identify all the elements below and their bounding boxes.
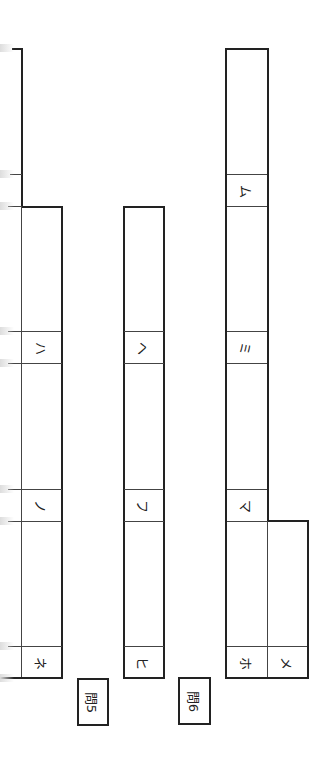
cell-label-mu: ム bbox=[231, 171, 263, 211]
cell-label-ho: ホ bbox=[231, 643, 263, 683]
answer-area-me[interactable] bbox=[268, 522, 307, 646]
scan-shadow bbox=[0, 485, 14, 493]
scan-shadow bbox=[0, 202, 14, 210]
cell-label-he: ヘ bbox=[128, 328, 160, 368]
answer-area-mu[interactable] bbox=[227, 50, 267, 174]
scan-shadow bbox=[0, 359, 14, 367]
right-box-ext-right-border bbox=[307, 520, 309, 679]
question-5-label-box: 問5 bbox=[77, 678, 109, 726]
scan-shadow bbox=[0, 170, 14, 178]
answer-area-ne[interactable] bbox=[22, 522, 61, 646]
question-5-label: 問5 bbox=[84, 691, 103, 712]
cell-label-fu: フ bbox=[128, 486, 160, 526]
answer-area-no[interactable] bbox=[22, 364, 61, 489]
scan-shadow bbox=[0, 642, 14, 650]
scan-shadow bbox=[0, 327, 14, 335]
answer-area-ho[interactable] bbox=[227, 522, 267, 646]
answer-area-he[interactable] bbox=[125, 208, 163, 331]
answer-area-mi[interactable] bbox=[227, 207, 267, 331]
cell-label-mi: ミ bbox=[231, 328, 263, 368]
cell-label-hi: ヒ bbox=[128, 643, 160, 683]
bracket-vertical bbox=[21, 48, 23, 208]
scan-shadow bbox=[0, 44, 14, 52]
answer-area-hi[interactable] bbox=[125, 522, 163, 646]
cell-label-ne: ネ bbox=[26, 643, 58, 683]
question-6-label-box: 問6 bbox=[178, 677, 211, 725]
scan-shadow bbox=[0, 674, 14, 682]
cell-label-ha: ハ bbox=[26, 328, 58, 368]
answer-area-fu[interactable] bbox=[125, 364, 163, 489]
answer-area-ha[interactable] bbox=[22, 208, 61, 331]
cell-label-no: ノ bbox=[26, 486, 58, 526]
answer-area-ma[interactable] bbox=[227, 364, 267, 489]
scan-shadow bbox=[0, 517, 14, 525]
right-box-right-border-upper bbox=[267, 48, 269, 522]
cell-label-ma: マ bbox=[231, 486, 263, 526]
left-box-right-border bbox=[61, 206, 63, 679]
question-6-label: 問6 bbox=[185, 690, 204, 711]
cell-label-me: メ bbox=[272, 643, 304, 683]
